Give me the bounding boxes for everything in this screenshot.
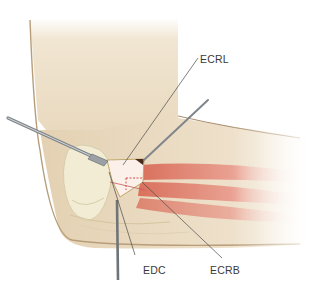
retractor-bottom bbox=[117, 200, 118, 280]
label-ecrb: ECRB bbox=[210, 264, 240, 276]
elbow-anatomy-illustration: ECRL EDC ECRB bbox=[0, 0, 325, 295]
illustration-canvas bbox=[0, 0, 325, 295]
label-edc: EDC bbox=[143, 264, 166, 276]
label-ecrl: ECRL bbox=[200, 53, 229, 65]
